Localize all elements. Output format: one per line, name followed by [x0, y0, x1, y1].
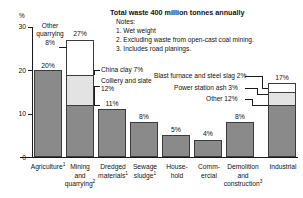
x-label-sewage-l2-text: sludge: [134, 172, 154, 179]
y-tick-mark-0: [28, 157, 32, 158]
leader-other-industrial-h: [245, 99, 252, 100]
leader-blast-furnace-h2: [262, 88, 268, 89]
x-label-demolition-l3: construction3: [219, 180, 267, 189]
y-tick-label-30: 30: [13, 23, 26, 30]
x-label-demolition-l3-text: construction: [224, 180, 260, 187]
bar-commercial: [194, 140, 222, 157]
annotation-other-quarrying-l3: 8%: [45, 39, 55, 46]
leader-power-station-ash-h: [245, 88, 257, 89]
bar-segment-household: [162, 135, 190, 157]
leader-power-station-ash-h2: [257, 94, 268, 95]
bar-agriculture: [34, 70, 62, 157]
annotation-china-clay: China clay 7%: [101, 66, 143, 74]
x-label-demolition-note: 3: [260, 179, 263, 184]
x-label-demolition-l1: Demolition: [227, 163, 259, 170]
bar-demolition-and-construction: [226, 122, 254, 157]
bar-segment-sewage-sludge: [130, 122, 158, 157]
bar-household: [162, 135, 190, 157]
x-label-demolition-and-construction: Demolition and construction3: [219, 163, 267, 189]
bar-value-commercial: 4%: [188, 130, 228, 137]
x-label-mining-l3: quarrying2: [60, 180, 100, 189]
leader-colliery-v: [94, 86, 95, 105]
y-tick-mark-10: [28, 114, 32, 115]
chart-title: Total waste 400 million tonnes annually: [110, 9, 244, 17]
x-label-dredged-l2-text: materials: [98, 172, 125, 179]
note-2: 2. Excluding waste from open-cast coal m…: [116, 37, 254, 44]
bar-mining-and-quarrying: [66, 40, 94, 157]
annotation-power-station-ash: Power station ash 3%: [174, 84, 238, 92]
annotation-other-industrial: Other 12%: [206, 95, 238, 103]
annotation-other-quarrying-l2: quarrying: [36, 30, 64, 37]
waste-composition-bar-chart: Total waste 400 million tonnes annually …: [0, 0, 303, 198]
bar-segment-agriculture: [34, 70, 62, 157]
x-axis-line: [20, 157, 298, 158]
bar-segment-colliery-and-slate: [66, 105, 94, 157]
y-tick-label-10: 10: [13, 110, 26, 117]
bar-segment-dredged-materials: [98, 109, 126, 157]
annotation-colliery-and-slate-l2: 12%: [101, 85, 114, 92]
x-label-industrial: Industrial: [264, 163, 302, 172]
leader-other-quarrying: [59, 47, 67, 48]
bar-sewage-sludge: [130, 122, 158, 157]
x-label-commercial-l1: Comm-: [198, 163, 220, 170]
x-label-sewage-l1: Sewage: [133, 163, 157, 170]
y-tick-label-0: 0: [13, 154, 26, 161]
bar-segment-commercial: [194, 140, 222, 157]
leader-blast-furnace-h: [245, 76, 263, 77]
annotation-other-quarrying: Otherquarrying8%: [33, 22, 67, 47]
bar-industrial: [268, 83, 296, 157]
annotation-other-quarrying-l1: Other: [42, 22, 59, 29]
x-label-mining-l1: Mining: [70, 163, 90, 170]
bar-value-demolition-and-construction: 8%: [220, 113, 260, 120]
bar-segment-power-station-ash: [268, 92, 296, 106]
x-label-household-l1: House-: [166, 163, 188, 170]
note-1: 1. Wet weight: [116, 28, 156, 35]
y-axis-unit-label: %: [19, 13, 25, 20]
bar-segment-blast-furnace-and-steel-slag: [268, 83, 296, 93]
x-label-sewage-note: 1: [154, 170, 157, 175]
leader-colliery-h2: [94, 105, 100, 106]
x-label-industrial-l1: Industrial: [269, 163, 296, 170]
x-label-agriculture-l1: Agriculture: [31, 163, 63, 170]
bar-value-sewage-sludge: 8%: [124, 113, 164, 120]
bar-value-agriculture: 20%: [28, 62, 68, 69]
bar-value-industrial: 17%: [262, 74, 302, 81]
bar-segment-other-quarrying: [66, 40, 94, 76]
y-tick-mark-20: [28, 70, 32, 71]
x-label-mining-l3-text: quarrying: [65, 180, 93, 187]
bar-segment-other-industrial: [268, 105, 296, 157]
y-tick-mark-30: [28, 27, 32, 28]
leader-china-clay-v: [94, 70, 95, 75]
x-label-dredged-l1: Dredged: [100, 163, 126, 170]
bar-dredged-materials: [98, 109, 126, 157]
y-tick-label-20: 20: [13, 67, 26, 74]
bar-segment-demolition-and-construction: [226, 122, 254, 157]
notes-label: Notes:: [116, 19, 135, 26]
annotation-blast-furnace-and-steel-slag: Blast furnace and steel slag 2%: [154, 72, 246, 80]
bar-segment-china-clay: [66, 75, 94, 106]
note-3: 3. Includes road planings.: [116, 46, 191, 53]
annotation-colliery-and-slate: Colliery and slate12%: [101, 77, 159, 94]
bar-value-dredged-materials: 11%: [92, 100, 132, 107]
annotation-colliery-and-slate-l1: Colliery and slate: [101, 77, 152, 84]
leader-other-industrial-h2: [252, 105, 268, 106]
